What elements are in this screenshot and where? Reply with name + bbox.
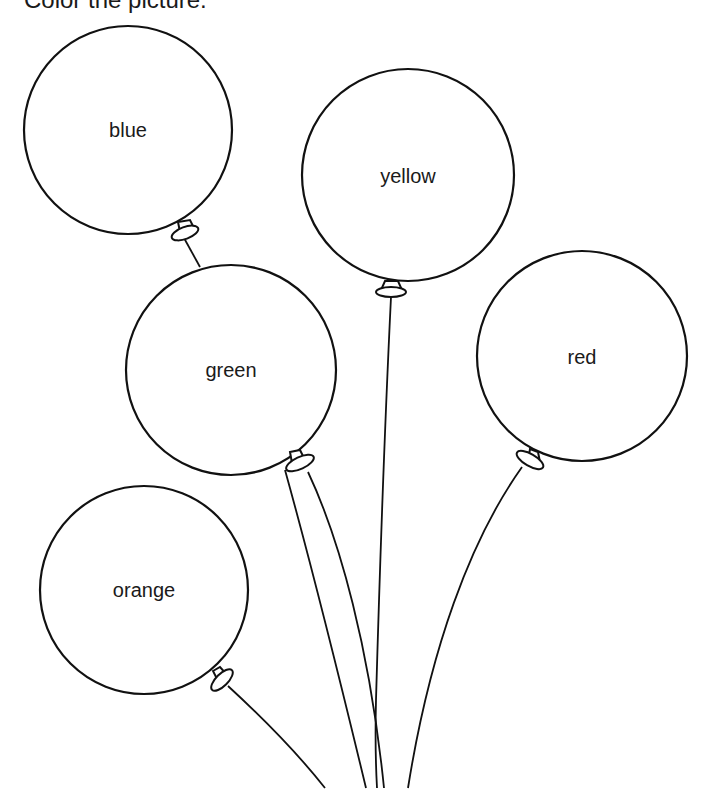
- balloon-green[interactable]: green: [126, 265, 336, 475]
- balloon-blue[interactable]: blue: [24, 26, 232, 243]
- balloon-orange[interactable]: orange: [40, 486, 248, 694]
- balloon-red[interactable]: red: [477, 251, 687, 473]
- balloon-label-yellow: yellow: [380, 165, 436, 187]
- knot-ring: [376, 287, 406, 297]
- balloon-label-red: red: [568, 346, 597, 368]
- string-green-1: [285, 470, 366, 788]
- balloon-label-blue: blue: [109, 119, 147, 141]
- string-green-2: [308, 472, 384, 788]
- knot-ring: [170, 223, 200, 244]
- balloon-label-orange: orange: [113, 579, 175, 601]
- string-blue: [184, 238, 200, 267]
- balloon-picture: blue yellow green red orange: [0, 0, 707, 809]
- balloon-label-green: green: [205, 359, 256, 381]
- balloon-yellow[interactable]: yellow: [302, 69, 514, 297]
- string-red: [408, 467, 522, 788]
- string-orange: [228, 686, 325, 788]
- string-yellow: [376, 297, 391, 788]
